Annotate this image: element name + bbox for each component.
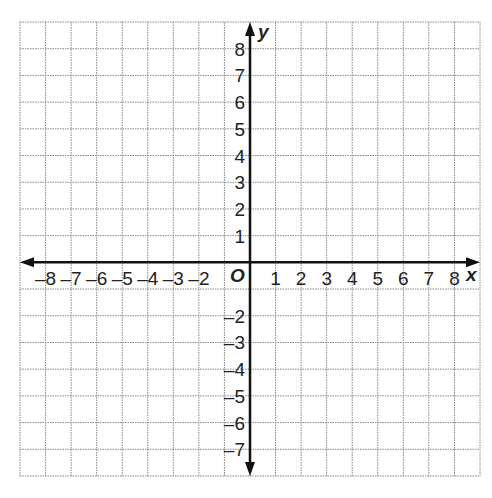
y-axis-up-arrow-icon <box>245 22 255 36</box>
origin-label: O <box>230 265 245 286</box>
axes <box>20 22 480 476</box>
x-tick-label: –2 <box>188 268 209 289</box>
x-tick-label: 4 <box>347 268 358 289</box>
x-tick-label: 7 <box>424 268 435 289</box>
x-tick-label: 8 <box>449 268 460 289</box>
y-tick-label: –3 <box>224 332 245 353</box>
y-tick-label: –6 <box>224 413 245 434</box>
x-tick-label: 3 <box>321 268 332 289</box>
x-tick-label: –7 <box>61 268 82 289</box>
y-tick-label: –4 <box>224 359 246 380</box>
y-tick-label: –7 <box>224 439 245 460</box>
x-tick-label: –4 <box>137 268 159 289</box>
x-tick-label: 5 <box>372 268 383 289</box>
x-axis-left-arrow-icon <box>20 257 34 267</box>
y-tick-label: 5 <box>234 119 245 140</box>
y-tick-label: 3 <box>234 172 245 193</box>
y-axis-down-arrow-icon <box>245 462 255 476</box>
x-tick-label: 2 <box>296 268 307 289</box>
x-tick-label: 6 <box>398 268 409 289</box>
y-tick-label: 7 <box>234 65 245 86</box>
y-tick-label: 1 <box>234 226 245 247</box>
y-tick-label: 8 <box>234 39 245 60</box>
y-tick-label: 6 <box>234 92 245 113</box>
coordinate-plane: –8–7–6–5–4–3–21234567887654321–2–3–4–5–6… <box>0 0 492 498</box>
y-axis-label: y <box>257 21 270 42</box>
y-tick-label: –5 <box>224 386 245 407</box>
y-tick-label: 2 <box>234 199 245 220</box>
x-tick-label: –5 <box>112 268 133 289</box>
x-tick-label: –3 <box>163 268 184 289</box>
x-tick-label: –8 <box>35 268 56 289</box>
y-tick-label: 4 <box>234 146 245 167</box>
x-axis-label: x <box>465 264 478 285</box>
x-tick-label: 1 <box>270 268 281 289</box>
y-tick-label: –2 <box>224 306 245 327</box>
x-tick-label: –6 <box>86 268 107 289</box>
